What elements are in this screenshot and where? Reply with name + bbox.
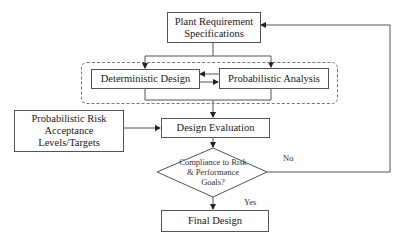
- label-line: Probabilistic Risk: [32, 113, 107, 124]
- plant-requirement-specifications-box: Plant Requirement Specifications: [167, 12, 261, 43]
- design-evaluation-box: Design Evaluation: [161, 118, 270, 138]
- deterministic-design-label: Deterministic Design: [101, 73, 191, 85]
- label-line: Levels/Targets: [38, 137, 99, 148]
- label-line: Specifications: [184, 28, 243, 39]
- risk-acceptance-label: Probabilistic Risk Acceptance Levels/Tar…: [32, 113, 107, 149]
- deterministic-design-box: Deterministic Design: [91, 69, 200, 89]
- probabilistic-analysis-label: Probabilistic Analysis: [228, 73, 320, 85]
- label-line: Goals?: [201, 177, 225, 187]
- label-line: & Performance: [187, 167, 239, 177]
- final-design-label: Final Design: [188, 215, 242, 227]
- label-line: Acceptance: [45, 125, 94, 136]
- final-design-box: Final Design: [161, 210, 269, 232]
- yes-label: Yes: [244, 197, 256, 207]
- design-evaluation-label: Design Evaluation: [177, 122, 255, 134]
- plant-requirement-label: Plant Requirement Specifications: [175, 16, 253, 40]
- probabilistic-analysis-box: Probabilistic Analysis: [219, 68, 329, 89]
- label-line: Compliance to Risk: [179, 157, 247, 167]
- risk-acceptance-box: Probabilistic Risk Acceptance Levels/Tar…: [14, 110, 124, 152]
- label-line: Plant Requirement: [175, 16, 253, 27]
- no-label: No: [283, 153, 293, 163]
- compliance-decision-diamond: Compliance to Risk & Performance Goals?: [167, 157, 259, 187]
